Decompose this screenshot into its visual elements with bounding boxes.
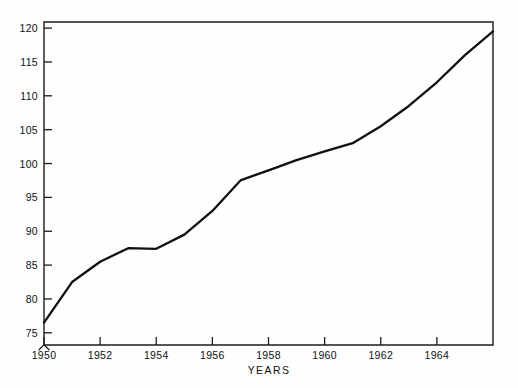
y-axis-label-group: 7580859095100105110115120 (20, 22, 38, 339)
data-series-group (44, 31, 493, 322)
x-axis-tick-label: 1954 (144, 349, 169, 361)
plot-frame-border (44, 22, 493, 345)
y-axis-tick-label: 85 (26, 259, 38, 271)
y-axis-tick-group (44, 28, 52, 333)
x-axis-tick-label: 1952 (88, 349, 113, 361)
y-axis-tick-label: 80 (26, 293, 38, 305)
x-axis-tick-group (44, 337, 437, 345)
x-axis-tick-label: 1960 (312, 349, 337, 361)
data-line-series (44, 31, 493, 322)
x-axis-tick-label: 1950 (32, 349, 57, 361)
x-axis-title: YEARS (248, 364, 291, 376)
x-axis-tick-label: 1962 (368, 349, 393, 361)
chart-container: 7580859095100105110115120 19501952195419… (0, 0, 518, 388)
y-axis-tick-label: 110 (20, 90, 38, 102)
x-axis-label-group: 19501952195419561958196019621964 (32, 349, 449, 361)
x-axis-tick-label: 1958 (256, 349, 281, 361)
line-chart-figure: 7580859095100105110115120 19501952195419… (0, 0, 518, 388)
y-axis-tick-label: 120 (20, 22, 38, 34)
y-axis-tick-label: 100 (20, 158, 38, 170)
y-axis-tick-label: 115 (20, 56, 38, 68)
plot-frame (44, 22, 493, 345)
y-axis-tick-label: 105 (20, 124, 38, 136)
x-axis-tick-label: 1964 (425, 349, 450, 361)
x-axis-tick-label: 1956 (200, 349, 225, 361)
y-axis-tick-label: 90 (26, 225, 38, 237)
y-axis-tick-label: 95 (26, 191, 38, 203)
y-axis-tick-label: 75 (26, 327, 38, 339)
